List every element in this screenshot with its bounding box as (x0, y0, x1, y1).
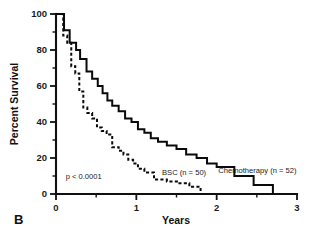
y-tick-label: 60 (36, 80, 47, 91)
x-axis-title: Years (162, 214, 190, 226)
y-axis-tick-labels: 020406080100 (31, 8, 47, 199)
x-tick-label: 1 (134, 202, 140, 213)
x-tick-label: 0 (53, 202, 58, 213)
x-tick-label: 3 (294, 202, 299, 213)
x-tick-label: 2 (214, 202, 219, 213)
y-tick-label: 40 (36, 116, 47, 127)
y-tick-label: 100 (31, 8, 47, 19)
annotation-p-value: p < 0.0001 (66, 172, 102, 181)
y-axis-title: Percent Survival (8, 63, 20, 145)
y-tick-label: 20 (36, 152, 47, 163)
panel-label: B (14, 212, 23, 227)
figure-panel-b: 020406080100 0123 p < 0.0001BSC (n = 50)… (0, 0, 312, 235)
y-tick-label: 0 (42, 188, 47, 199)
survival-chart: 020406080100 0123 p < 0.0001BSC (n = 50)… (0, 0, 312, 235)
series-line-bsc (56, 14, 201, 194)
x-axis-tick-labels: 0123 (53, 202, 299, 213)
annotations-group: p < 0.0001BSC (n = 50)Chemotherapy (n = … (66, 166, 297, 180)
annotation-chemo-label: Chemotherapy (n = 52) (218, 166, 297, 175)
annotation-bsc-label: BSC (n = 50) (162, 168, 207, 177)
y-tick-label: 80 (36, 44, 47, 55)
